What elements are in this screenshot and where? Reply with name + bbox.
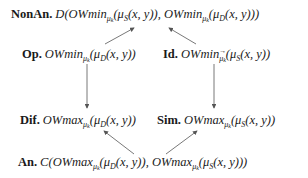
vector-arrow-icon: μk <box>219 52 226 67</box>
node-formula: OWminμk(μS(x, y)) <box>181 47 270 61</box>
node-formula: OWminμk(μD(x, y)) <box>45 47 136 61</box>
node-id: Id.OWminμk(μS(x, y)) <box>163 47 270 67</box>
node-label: Id. <box>163 47 178 61</box>
edge-an-to-dif <box>104 131 134 154</box>
node-formula: D(OWminμk(μS(x, y)), OWminμk(μD(x, y))) <box>55 7 259 21</box>
edge-op-to-nonan <box>105 28 134 44</box>
node-nonan: NonAn.D(OWminμk(μS(x, y)), OWminμk(μD(x,… <box>11 7 259 27</box>
node-label: Sim. <box>157 113 181 127</box>
edge-id-to-nonan <box>169 28 196 44</box>
node-an: An.C(OWmaxμk(μD(x, y)), OWmaxμk(μS(x, y)… <box>18 155 247 175</box>
node-dif: Dif.OWmaxμk(μD(x, y)) <box>20 113 136 133</box>
node-formula: OWmaxμk(μD(x, y)) <box>43 113 136 127</box>
node-label: An. <box>18 155 37 169</box>
node-label: NonAn. <box>11 7 52 21</box>
edge-an-to-sim <box>166 131 197 154</box>
node-formula: OWmaxμk(μS(x, y)) <box>184 113 275 127</box>
node-op: Op.OWminμk(μD(x, y)) <box>22 47 136 67</box>
node-formula: C(OWmaxμk(μD(x, y)), OWmaxμk(μS(x, y))) <box>40 155 247 169</box>
node-sim: Sim.OWmaxμk(μS(x, y)) <box>157 113 275 133</box>
node-label: Dif. <box>20 113 40 127</box>
node-label: Op. <box>22 47 42 61</box>
